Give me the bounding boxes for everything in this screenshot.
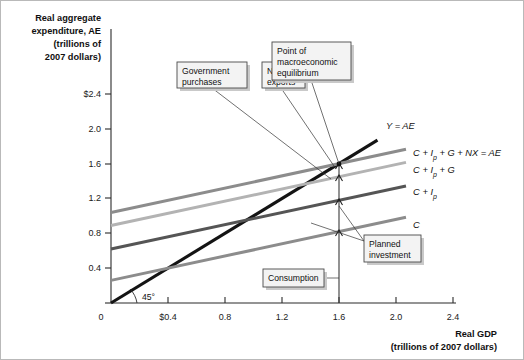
callout-government-purchases: Governmentpurchases <box>177 62 250 91</box>
curve-label-c-ip-g-nx-ae: C + Ip + G + NX = AE <box>413 148 502 162</box>
x-axis-title-line-0: Real GDP <box>455 329 497 339</box>
x-tick-label-5: 2.0 <box>390 312 403 322</box>
y-tick-label-0: 0 <box>98 312 103 322</box>
callout-text-line: Planned <box>369 239 401 249</box>
callout-text-line: Government <box>182 66 230 76</box>
y-axis-title-line-3: 2007 dollars) <box>45 52 101 62</box>
y-tick-label-5: 2.0 <box>88 124 101 134</box>
angle-label: 45° <box>142 292 155 302</box>
x-tick-label-4: 1.6 <box>333 312 346 322</box>
callout-text-line: macroeconomic <box>277 57 338 67</box>
callout-text-line: purchases <box>182 77 222 87</box>
leader-government-purchases <box>212 88 331 179</box>
callout-text-line: equilibrium <box>277 68 319 78</box>
callout-text-line: Consumption <box>268 273 319 283</box>
callout-consumption: Consumption <box>263 269 327 290</box>
x-tick-label-1: $0.4 <box>159 312 177 322</box>
y-axis-title-line-2: (trillions of <box>54 39 102 49</box>
callout-text-line: Point of <box>277 46 307 56</box>
y-tick-label-6: $2.4 <box>83 89 101 99</box>
y-axis-title-line-1: expenditure, AE <box>31 26 101 36</box>
curve-label-y-ae: Y = AE <box>386 121 415 131</box>
y-axis-title-line-0: Real aggregate <box>35 13 101 23</box>
curve-c <box>111 217 406 280</box>
x-tick-label-3: 1.2 <box>276 312 289 322</box>
leader-macro-equilibrium <box>311 80 339 164</box>
x-axis-ticks: $0.4 0.8 1.2 1.6 2.0 2.4 <box>159 297 459 322</box>
callout-point-of-macroeconomic-equilibrium: Point ofmacroeconomicequilibrium <box>272 42 354 83</box>
curve-c-ip-g-nx-ae <box>111 149 406 212</box>
y-axis-ticks: 0 0.4 0.8 1.2 1.6 2.0 $2.4 <box>83 89 111 322</box>
y-tick-label-3: 1.2 <box>88 193 101 203</box>
leader-planned-investment <box>311 223 364 241</box>
x-tick-label-6: 2.4 <box>447 312 460 322</box>
leader-net-exports <box>281 88 334 166</box>
y-axis-title: Real aggregate expenditure, AE (trillion… <box>31 13 102 62</box>
y-tick-label-2: 0.8 <box>88 228 101 238</box>
curve-label-c-ip: C + Ip <box>413 187 437 201</box>
x-axis-title-line-1: (trillions of 2007 dollars) <box>391 342 497 352</box>
figure-container: 0 0.4 0.8 1.2 1.6 2.0 $2.4 $0.4 0.8 1.2 … <box>0 0 524 360</box>
x-axis-title: Real GDP (trillions of 2007 dollars) <box>391 329 497 352</box>
callout-planned-investment: Plannedinvestment <box>364 235 424 265</box>
x-tick-label-2: 0.8 <box>219 312 232 322</box>
y-tick-label-1: 0.4 <box>88 263 101 273</box>
forty-five-degree-marker: 45° <box>130 289 155 303</box>
curve-label-c: C <box>413 220 420 230</box>
callout-text-line: investment <box>369 250 411 260</box>
aggregate-expenditure-chart: 0 0.4 0.8 1.2 1.6 2.0 $2.4 $0.4 0.8 1.2 … <box>1 1 524 360</box>
curve-label-c-ip-g: C + Ip + G <box>413 165 455 179</box>
y-tick-label-4: 1.6 <box>88 159 101 169</box>
